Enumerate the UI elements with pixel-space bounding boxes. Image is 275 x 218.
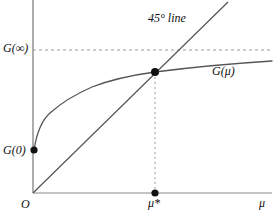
g-zero-marker xyxy=(30,146,37,153)
diagonal-45-label: 45° line xyxy=(148,12,186,24)
mu-axis-label: μ xyxy=(259,197,265,209)
plot-canvas xyxy=(0,0,275,218)
figure-container: G(∞) G(0) O μ* μ G(μ) 45° line xyxy=(0,0,275,218)
mu-star-label: μ* xyxy=(148,197,160,209)
g-zero-label: G(0) xyxy=(3,144,26,156)
g-mu-curve-label: G(μ) xyxy=(212,65,235,77)
fixed-point-marker xyxy=(151,68,159,76)
diagonal-45-line xyxy=(33,2,228,193)
origin-label: O xyxy=(21,198,30,210)
g-infinity-label: G(∞) xyxy=(3,42,28,54)
